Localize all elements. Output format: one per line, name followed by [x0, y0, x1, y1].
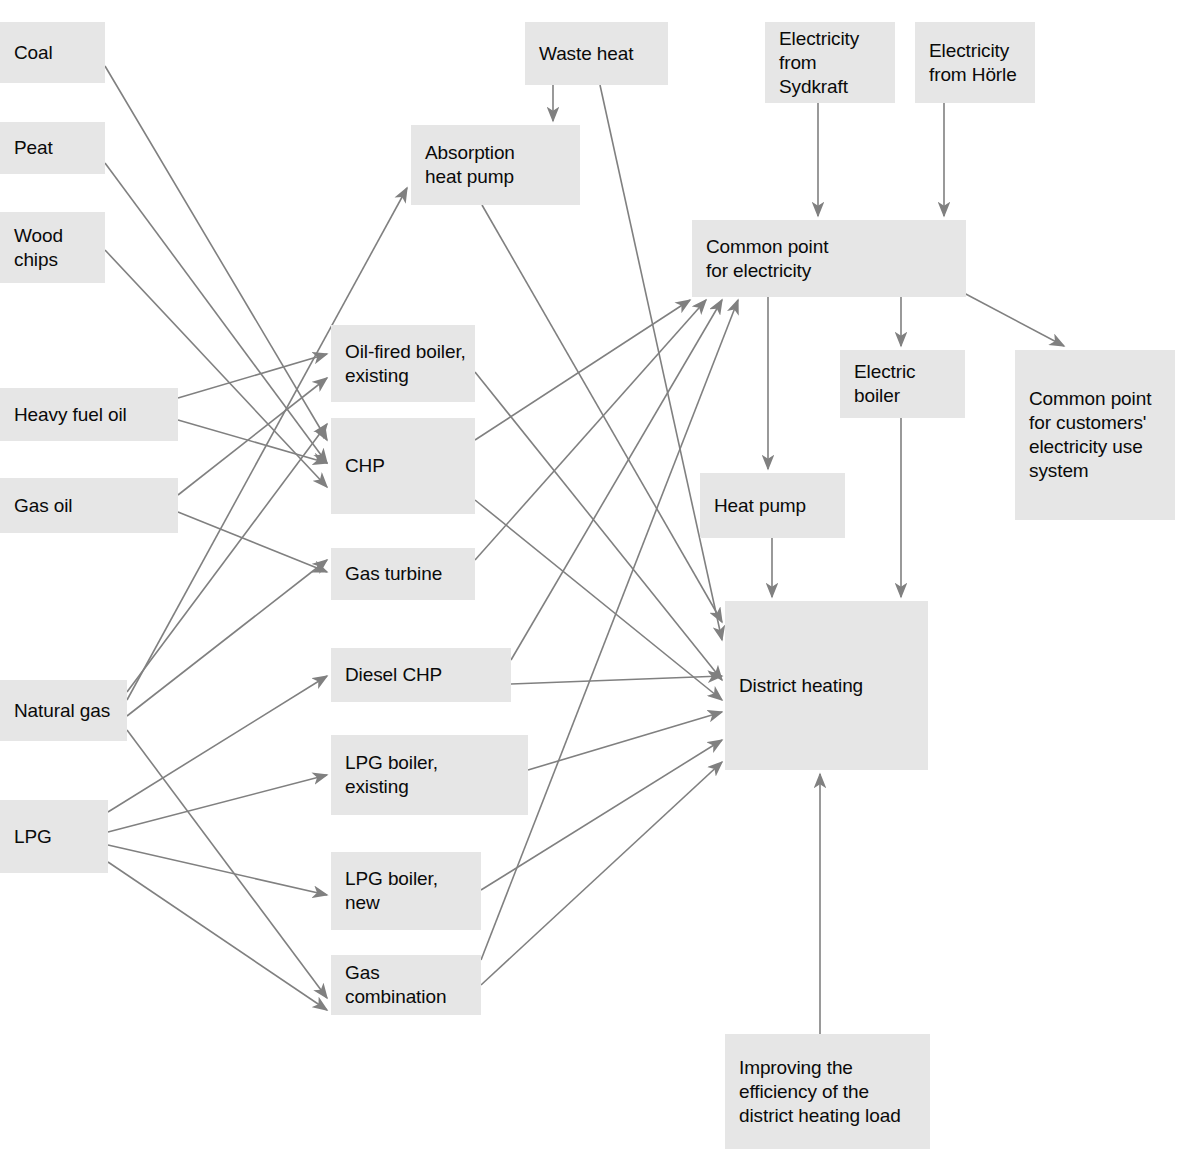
node-label-improving_eff: Improving the efficiency of the district… — [739, 1056, 901, 1128]
flow-diagram: CoalPeatWood chipsHeavy fuel oilGas oilN… — [0, 0, 1184, 1155]
node-label-wood_chips: Wood chips — [14, 224, 63, 272]
edge-gas_turbine-to-common_elec — [475, 300, 706, 560]
edge-natural_gas-to-gas_combination — [127, 730, 327, 998]
node-label-gas_turbine: Gas turbine — [345, 562, 442, 586]
edge-layer — [0, 0, 1184, 1155]
node-label-elec_sydkraft: Electricity from Sydkraft — [779, 27, 859, 99]
node-elec_horle[interactable]: Electricity from Hörle — [915, 22, 1035, 103]
node-label-district_heating: District heating — [739, 674, 863, 698]
node-common_elec[interactable]: Common point for electricity — [692, 220, 966, 297]
node-lpg[interactable]: LPG — [0, 800, 108, 873]
edge-coal-to-chp — [105, 66, 327, 440]
edge-absorption_hp-to-district_heating — [482, 205, 722, 622]
node-diesel_chp[interactable]: Diesel CHP — [331, 648, 511, 702]
node-label-common_cust: Common point for customers' electricity … — [1029, 387, 1151, 483]
node-district_heating[interactable]: District heating — [725, 601, 928, 770]
node-label-gas_combination: Gas combination — [345, 961, 446, 1009]
edge-common_elec-to-common_cust — [962, 292, 1064, 346]
edge-heavy_fuel_oil-to-chp — [178, 420, 327, 463]
edge-gas_combination-to-common_elec — [481, 300, 738, 960]
edge-oil_boiler_ex-to-district_heating — [475, 372, 722, 680]
node-oil_boiler_ex[interactable]: Oil-fired boiler, existing — [331, 325, 475, 402]
node-label-lpg_boiler_new: LPG boiler, new — [345, 867, 438, 915]
node-lpg_boiler_new[interactable]: LPG boiler, new — [331, 852, 481, 930]
edge-chp-to-district_heating — [475, 500, 722, 700]
edge-gas_oil-to-oil_boiler_ex — [178, 378, 327, 495]
node-label-natural_gas: Natural gas — [14, 699, 110, 723]
node-gas_oil[interactable]: Gas oil — [0, 478, 178, 533]
node-waste_heat[interactable]: Waste heat — [525, 22, 668, 85]
edge-diesel_chp-to-district_heating — [511, 676, 722, 684]
node-label-coal: Coal — [14, 41, 53, 65]
node-label-lpg: LPG — [14, 825, 52, 849]
node-label-diesel_chp: Diesel CHP — [345, 663, 442, 687]
node-heat_pump[interactable]: Heat pump — [700, 473, 845, 538]
node-label-common_elec: Common point for electricity — [706, 235, 828, 283]
edge-lpg_boiler_ex-to-district_heating — [528, 712, 722, 770]
edge-diesel_chp-to-common_elec — [511, 300, 722, 660]
node-elec_sydkraft[interactable]: Electricity from Sydkraft — [765, 22, 895, 103]
node-label-chp: CHP — [345, 454, 385, 478]
edge-lpg-to-lpg_boiler_ex — [108, 775, 327, 832]
node-label-electric_boiler: Electric boiler — [854, 360, 916, 408]
node-chp[interactable]: CHP — [331, 418, 475, 514]
node-label-absorption_hp: Absorption heat pump — [425, 141, 515, 189]
edge-lpg-to-gas_combination — [108, 862, 327, 1010]
node-lpg_boiler_ex[interactable]: LPG boiler, existing — [331, 735, 528, 815]
edge-chp-to-common_elec — [475, 300, 690, 440]
node-electric_boiler[interactable]: Electric boiler — [840, 350, 965, 418]
node-improving_eff[interactable]: Improving the efficiency of the district… — [725, 1034, 930, 1149]
node-label-elec_horle: Electricity from Hörle — [929, 39, 1017, 87]
node-label-heat_pump: Heat pump — [714, 494, 806, 518]
node-gas_turbine[interactable]: Gas turbine — [331, 548, 475, 600]
edge-natural_gas-to-chp — [127, 424, 327, 692]
node-label-lpg_boiler_ex: LPG boiler, existing — [345, 751, 438, 799]
edge-heavy_fuel_oil-to-oil_boiler_ex — [178, 354, 327, 398]
node-gas_combination[interactable]: Gas combination — [331, 955, 481, 1015]
edge-natural_gas-to-gas_turbine — [127, 560, 327, 716]
node-label-gas_oil: Gas oil — [14, 494, 72, 518]
edge-gas_oil-to-gas_turbine — [178, 512, 327, 572]
node-common_cust[interactable]: Common point for customers' electricity … — [1015, 350, 1175, 520]
node-absorption_hp[interactable]: Absorption heat pump — [411, 125, 580, 205]
node-natural_gas[interactable]: Natural gas — [0, 680, 127, 741]
edge-lpg-to-diesel_chp — [108, 676, 327, 812]
node-heavy_fuel_oil[interactable]: Heavy fuel oil — [0, 388, 178, 441]
node-wood_chips[interactable]: Wood chips — [0, 212, 105, 283]
node-coal[interactable]: Coal — [0, 22, 105, 83]
edge-lpg-to-lpg_boiler_new — [108, 845, 327, 895]
node-label-peat: Peat — [14, 136, 53, 160]
node-label-oil_boiler_ex: Oil-fired boiler, existing — [345, 340, 466, 388]
edge-waste_heat-to-district_heating — [600, 85, 722, 640]
edges-group — [105, 66, 1064, 1034]
node-peat[interactable]: Peat — [0, 122, 105, 174]
node-label-heavy_fuel_oil: Heavy fuel oil — [14, 403, 127, 427]
node-label-waste_heat: Waste heat — [539, 42, 633, 66]
edge-wood_chips-to-chp — [105, 250, 327, 487]
